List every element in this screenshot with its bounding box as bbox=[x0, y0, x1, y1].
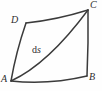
edge-b-c bbox=[87, 10, 88, 76]
edge-a-b bbox=[11, 76, 87, 82]
vertex-label-d: D bbox=[11, 15, 18, 25]
vertex-label-a: A bbox=[1, 74, 7, 84]
edge-d-a bbox=[11, 23, 26, 81]
arc-length-variable-s: s bbox=[37, 44, 41, 55]
vertex-label-b: B bbox=[89, 72, 95, 82]
geometry-figure: A B C D ds bbox=[0, 0, 102, 91]
vertex-label-c: C bbox=[90, 0, 97, 10]
diagonal-arc-a-c bbox=[11, 10, 88, 81]
arc-length-label: ds bbox=[32, 44, 41, 55]
